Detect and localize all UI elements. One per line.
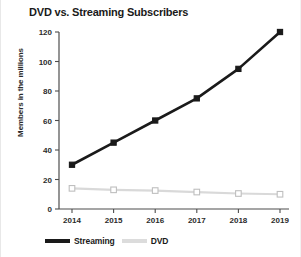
- data-point-marker[interactable]: [69, 186, 75, 192]
- x-tick-label: 2019: [271, 216, 289, 225]
- data-point-marker[interactable]: [194, 96, 199, 101]
- data-point-marker[interactable]: [111, 140, 116, 145]
- chart-figure: DVD vs. Streaming Subscribers Members in…: [0, 0, 301, 257]
- series-line: [72, 32, 280, 165]
- plot-area: 020406080100120 201420152016201720182019: [1, 0, 301, 257]
- x-tick-label: 2018: [230, 216, 248, 225]
- legend-label-dvd: DVD: [151, 236, 169, 246]
- y-tick-label: 80: [43, 87, 52, 96]
- x-tick-label: 2016: [146, 216, 164, 225]
- data-point-marker[interactable]: [236, 66, 241, 71]
- y-tick-label: 40: [43, 146, 52, 155]
- y-tick-label: 120: [39, 28, 53, 37]
- x-axis-ticks: 201420152016201720182019: [63, 209, 289, 225]
- data-point-marker[interactable]: [153, 118, 158, 123]
- y-tick-label: 0: [48, 205, 53, 214]
- x-tick-label: 2015: [105, 216, 123, 225]
- series-line: [72, 188, 280, 194]
- y-tick-label: 100: [39, 58, 53, 67]
- data-point-marker[interactable]: [277, 29, 282, 34]
- y-axis-ticks: 020406080100120: [39, 28, 59, 214]
- legend-item-streaming[interactable]: Streaming: [45, 236, 115, 246]
- x-tick-label: 2017: [188, 216, 206, 225]
- data-point-marker[interactable]: [277, 191, 283, 197]
- data-point-marker[interactable]: [194, 189, 200, 195]
- x-tick-label: 2014: [63, 216, 81, 225]
- legend-swatch-dvd: [122, 239, 147, 243]
- legend-swatch-streaming: [45, 239, 70, 243]
- y-tick-label: 20: [43, 176, 52, 185]
- chart-legend: Streaming DVD: [45, 236, 168, 246]
- legend-item-dvd[interactable]: DVD: [122, 236, 169, 246]
- data-point-marker[interactable]: [236, 191, 242, 197]
- data-series-layer: [69, 29, 283, 197]
- data-point-marker[interactable]: [152, 188, 158, 194]
- y-tick-label: 60: [43, 117, 52, 126]
- data-point-marker[interactable]: [69, 162, 74, 167]
- legend-label-streaming: Streaming: [74, 236, 115, 246]
- data-point-marker[interactable]: [111, 187, 117, 193]
